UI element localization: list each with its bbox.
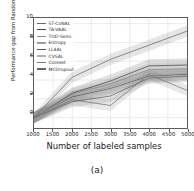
legend-item-label: TA-VAAL xyxy=(49,27,67,32)
legend-color-swatch xyxy=(37,42,46,43)
legend-item-label: CVSAL xyxy=(49,54,64,59)
legend-color-swatch xyxy=(37,23,46,24)
y-axis-label: Performance gap from Random sampling(%) xyxy=(8,0,18,81)
legend-color-swatch xyxy=(37,29,46,30)
legend-color-swatch xyxy=(37,55,46,56)
x-tick-mark xyxy=(130,129,131,132)
legend-item-label: Coreset xyxy=(49,60,66,65)
legend: ST-CoNALTA-VAALTOD-SemiEntropyLL4ALCVSAL… xyxy=(37,20,74,72)
legend-color-swatch xyxy=(37,68,46,69)
legend-item[interactable]: MCDropout xyxy=(37,66,74,73)
x-tick-label: 5000 xyxy=(176,132,194,137)
x-tick-mark xyxy=(111,129,112,132)
figure-caption: (a) xyxy=(0,165,194,176)
x-tick-mark xyxy=(169,129,170,132)
legend-item-label: ST-CoNAL xyxy=(49,21,71,26)
legend-item-label: LL4AL xyxy=(49,47,62,52)
legend-item-label: TOD-Semi xyxy=(49,34,72,39)
legend-item-label: MCDropout xyxy=(49,67,74,72)
legend-item-label: Entropy xyxy=(49,40,66,45)
x-tick-mark xyxy=(188,129,189,132)
x-tick-mark xyxy=(91,129,92,132)
x-tick-mark xyxy=(52,129,53,132)
legend-color-swatch xyxy=(37,62,46,63)
figure-panel: Performance gap from Random sampling(%) … xyxy=(0,0,194,191)
x-axis-label: Number of labeled samples xyxy=(20,141,188,151)
x-tick-mark xyxy=(149,129,150,132)
legend-color-swatch xyxy=(37,49,46,50)
x-tick-mark xyxy=(33,129,34,132)
x-tick-mark xyxy=(72,129,73,132)
legend-color-swatch xyxy=(37,36,46,37)
